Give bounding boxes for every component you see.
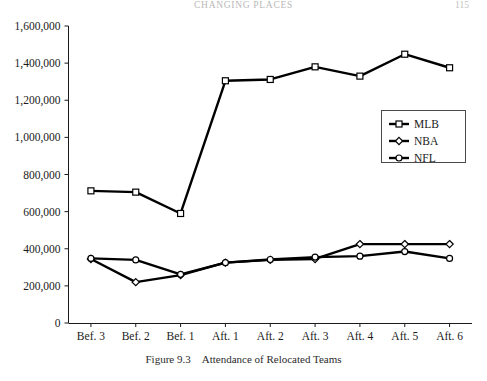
series-lines	[91, 54, 450, 282]
figure-caption: Figure 9.3Attendance of Relocated Teams	[0, 353, 487, 365]
data-point-mlb	[222, 78, 228, 84]
data-point-mlb	[133, 189, 139, 195]
legend-label-nfl: NFL	[414, 152, 436, 164]
figure-caption-text: Attendance of Relocated Teams	[202, 353, 342, 365]
data-point-mlb	[178, 210, 184, 216]
data-point-nfl	[447, 255, 453, 261]
data-point-nfl	[267, 257, 273, 263]
x-axis-tick-label: Aft. 2	[257, 330, 284, 342]
x-axis-tick-label: Aft. 3	[302, 330, 329, 342]
y-axis-tick-label: 400,000	[23, 243, 61, 256]
data-point-nfl	[357, 253, 363, 259]
data-point-mlb	[267, 76, 273, 82]
data-point-mlb	[357, 73, 363, 79]
x-axis-tick-label: Bef. 3	[77, 330, 105, 342]
x-axis-tick-label: Aft. 5	[391, 330, 418, 342]
x-axis-tick-labels: Bef. 3Bef. 2Bef. 1Aft. 1Aft. 2Aft. 3Aft.…	[77, 330, 463, 342]
y-axis-tick-label: 200,000	[23, 280, 61, 293]
y-axis-tick-label: 0	[55, 317, 61, 329]
y-axis-tick-label: 1,400,000	[15, 57, 61, 70]
data-point-nfl	[312, 254, 318, 260]
x-axis-tick-label: Bef. 1	[167, 330, 195, 342]
x-axis-tick-label: Aft. 4	[346, 330, 373, 342]
y-axis-tick-label: 600,000	[23, 206, 61, 219]
y-axis-tick-labels: 0200,000400,000600,000800,0001,000,0001,…	[15, 20, 61, 329]
y-axis-ticks	[65, 26, 69, 323]
data-point-mlb	[312, 64, 318, 70]
legend-label-nba: NBA	[414, 135, 439, 147]
data-point-mlb	[88, 188, 94, 194]
data-point-mlb	[396, 121, 402, 127]
data-point-nba	[356, 241, 363, 248]
data-point-nfl	[88, 255, 94, 261]
data-point-nba	[401, 241, 408, 248]
data-point-mlb	[402, 51, 408, 57]
figure-caption-number: Figure 9.3	[145, 353, 190, 365]
chart-legend: MLBNBANFL	[382, 111, 466, 165]
data-point-nfl	[178, 271, 184, 277]
x-axis-tick-label: Bef. 2	[122, 330, 150, 342]
x-axis-tick-label: Aft. 1	[212, 330, 239, 342]
y-axis-tick-label: 1,000,000	[15, 131, 61, 144]
data-point-nfl	[133, 257, 139, 263]
data-point-nfl	[396, 155, 402, 161]
legend-entries: MLBNBANFL	[389, 118, 439, 164]
x-axis-tick-label: Aft. 6	[436, 330, 463, 342]
data-point-nba	[446, 241, 453, 248]
data-point-nfl	[402, 249, 408, 255]
line-chart: 0200,000400,000600,000800,0001,000,0001,…	[0, 0, 487, 353]
y-axis-tick-label: 800,000	[23, 169, 61, 182]
figure-attendance-of-relocated-teams: 0200,000400,000600,000800,0001,000,0001,…	[0, 0, 487, 381]
data-point-nfl	[222, 260, 228, 266]
chart-plot-area: 0200,000400,000600,000800,0001,000,0001,…	[15, 20, 473, 342]
data-point-mlb	[447, 65, 453, 71]
legend-label-mlb: MLB	[414, 118, 439, 130]
y-axis-tick-label: 1,200,000	[15, 94, 61, 107]
y-axis-tick-label: 1,600,000	[15, 20, 61, 33]
series-markers	[87, 51, 453, 286]
